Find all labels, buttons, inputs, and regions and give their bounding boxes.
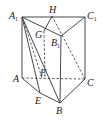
label-c1: C1 (87, 10, 97, 22)
label-c: C (87, 77, 94, 88)
label-h: H (48, 4, 57, 15)
label-f: F (39, 67, 47, 78)
label-b: B (56, 105, 62, 116)
label-e: E (34, 95, 41, 106)
prism-diagram: A1 H C1 G B1 A F C E B (0, 0, 103, 120)
edge-g-h (44, 16, 52, 31)
edge-a-c-hidden (22, 78, 85, 79)
edge-b-c (60, 79, 85, 103)
label-a: A (12, 73, 20, 84)
edge-b1-c1 (61, 17, 85, 36)
label-g: G (35, 29, 42, 40)
edge-e-b (40, 93, 60, 103)
edge-b1-b (60, 36, 61, 103)
label-a1: A1 (8, 10, 18, 22)
label-b1: B1 (51, 37, 60, 49)
